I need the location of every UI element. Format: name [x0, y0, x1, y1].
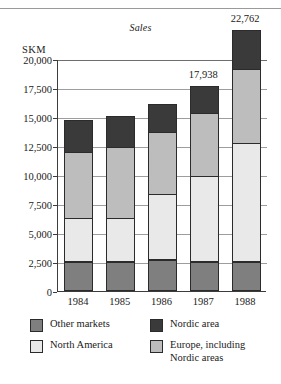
y-axis-tick-label: 17,500 [23, 84, 52, 95]
y-axis-tick-mark [53, 118, 57, 119]
cut-off-header-text [0, 0, 281, 7]
bar-segment [106, 147, 135, 219]
bar-segment [190, 262, 219, 291]
legend-item[interactable]: Nordic area [150, 318, 219, 332]
bar-segment [232, 262, 261, 291]
y-axis-tick-label: 0 [47, 287, 52, 298]
y-axis-tick-label: 2,500 [28, 258, 52, 269]
bar-segment [148, 194, 177, 260]
y-axis-tick-mark [53, 205, 57, 206]
y-axis-tick-mark [53, 89, 57, 90]
legend-item-label: North America [50, 339, 113, 352]
y-axis-tick-label: 15,000 [23, 113, 52, 124]
y-axis-tick-mark [53, 60, 57, 61]
chart-legend: Other marketsNordic areaNorth AmericaEur… [0, 318, 281, 380]
y-axis-tick-mark [53, 176, 57, 177]
legend-swatch-icon [150, 319, 163, 332]
y-axis-tick-mark [53, 263, 57, 264]
x-axis-tick-label: 1985 [98, 296, 142, 307]
bar-value-label: 22,762 [215, 13, 275, 24]
x-axis-tick-label: 1986 [140, 296, 184, 307]
y-axis-tick-mark [53, 234, 57, 235]
y-axis-unit-label: SKM [22, 44, 46, 55]
bar-segment [148, 260, 177, 291]
bar-segment [190, 176, 219, 262]
bar-segment [64, 152, 93, 219]
bar-1988[interactable] [232, 31, 261, 291]
bar-segment [106, 218, 135, 262]
bar-segment [106, 116, 135, 148]
bar-value-label: 17,938 [173, 69, 233, 80]
bar-segment [148, 132, 177, 195]
legend-item[interactable]: Other markets [30, 318, 110, 332]
bar-segment [232, 143, 261, 262]
bar-1987[interactable] [190, 87, 219, 291]
legend-item-label: Nordic area [170, 318, 219, 331]
bar-segment [190, 113, 219, 177]
bar-segment [232, 30, 261, 71]
bar-1986[interactable] [148, 105, 177, 291]
y-axis-tick-label: 20,000 [23, 55, 52, 66]
bar-segment [64, 120, 93, 152]
legend-item-label: Europe, including Nordic areas [170, 339, 245, 364]
y-axis-tick-mark [53, 147, 57, 148]
bar-segment [190, 86, 219, 115]
y-axis-tick-label: 7,500 [28, 200, 52, 211]
y-axis-tick-label: 12,500 [23, 142, 52, 153]
bar-1984[interactable] [64, 121, 93, 291]
header-divider [0, 8, 281, 9]
y-axis-tick-label: 5,000 [28, 229, 52, 240]
x-axis-tick-label: 1987 [181, 296, 225, 307]
bar-segment [64, 218, 93, 262]
bar-1985[interactable] [106, 117, 135, 291]
bar-segment [64, 262, 93, 291]
y-axis-tick-mark [53, 292, 57, 293]
plot-area [57, 60, 266, 292]
bar-segment [106, 262, 135, 291]
bar-segment [232, 69, 261, 143]
legend-item[interactable]: North America [30, 339, 113, 353]
bar-segment [148, 104, 177, 133]
x-axis-tick-label: 1988 [223, 296, 267, 307]
legend-swatch-icon [30, 340, 43, 353]
x-axis-tick-label: 1984 [56, 296, 100, 307]
y-axis-tick-label: 10,000 [23, 171, 52, 182]
legend-swatch-icon [30, 319, 43, 332]
legend-item-label: Other markets [50, 318, 110, 331]
legend-item[interactable]: Europe, including Nordic areas [150, 339, 245, 364]
legend-swatch-icon [150, 340, 163, 353]
